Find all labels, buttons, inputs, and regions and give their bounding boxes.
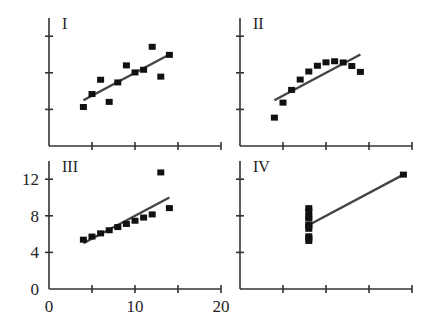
data-point (123, 62, 130, 68)
data-point (140, 67, 147, 73)
data-point (114, 79, 121, 85)
panel-label: II (253, 15, 264, 32)
panel-II: II (236, 15, 412, 150)
data-point (323, 59, 330, 65)
data-point (305, 69, 312, 75)
data-point (305, 235, 312, 241)
data-point (132, 218, 139, 224)
data-point (305, 214, 312, 220)
x-tick-label: 20 (213, 297, 230, 316)
data-point (271, 115, 278, 121)
data-point (305, 223, 312, 229)
regression-line (309, 175, 404, 225)
y-tick-label: 12 (22, 170, 39, 189)
y-tick-label: 0 (31, 280, 40, 299)
data-point (89, 91, 96, 97)
data-point (280, 100, 287, 106)
data-point (166, 205, 173, 211)
panel-I: I (45, 15, 221, 150)
data-point (400, 172, 407, 178)
data-point (106, 99, 113, 105)
panel-III: III (45, 158, 221, 293)
data-point (340, 59, 347, 65)
data-point (305, 208, 312, 214)
data-point (132, 69, 139, 75)
data-point (149, 211, 156, 217)
data-point (157, 74, 164, 80)
panel-label: III (62, 158, 78, 175)
data-point (331, 58, 338, 64)
data-point (288, 87, 295, 93)
data-point (348, 63, 355, 69)
data-point (314, 63, 321, 69)
anscombe-quartet-chart: IIIIIIIV0481201020 (0, 0, 431, 328)
panel-label: IV (253, 158, 270, 175)
data-point (157, 169, 164, 175)
x-tick-label: 0 (45, 297, 54, 316)
panel-IV: IV (236, 158, 412, 293)
regression-line (274, 55, 360, 101)
data-point (89, 234, 96, 240)
y-tick-label: 4 (31, 243, 40, 262)
data-point (123, 221, 130, 227)
data-point (97, 77, 104, 83)
regression-line (83, 198, 169, 244)
regression-line (83, 55, 169, 101)
data-point (114, 224, 121, 230)
data-point (106, 227, 113, 233)
data-point (80, 237, 87, 243)
data-point (97, 230, 104, 236)
x-tick-label: 10 (127, 297, 144, 316)
data-point (166, 52, 173, 58)
data-point (357, 69, 364, 75)
y-tick-label: 8 (31, 207, 40, 226)
data-point (297, 77, 304, 83)
data-point (149, 44, 156, 50)
panel-label: I (62, 15, 67, 32)
data-point (80, 104, 87, 110)
data-point (140, 215, 147, 221)
